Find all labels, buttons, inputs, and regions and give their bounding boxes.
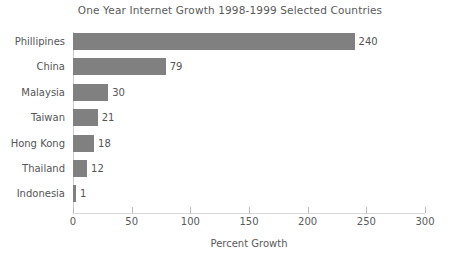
plot-area: 24079302118121 PhillipinesChinaMalaysiaT… bbox=[0, 0, 460, 268]
x-axis-tick-label: 0 bbox=[53, 216, 93, 228]
bar-value-label: 18 bbox=[98, 138, 111, 150]
x-axis-line bbox=[73, 213, 425, 214]
bar-chart: One Year Internet Growth 1998-1999 Selec… bbox=[0, 0, 460, 268]
x-axis-tick bbox=[73, 207, 74, 213]
x-axis-tick-label: 300 bbox=[405, 216, 445, 228]
bar bbox=[73, 84, 108, 101]
x-axis-tick bbox=[249, 207, 250, 213]
x-axis-tick bbox=[366, 207, 367, 213]
x-axis-tick-label: 50 bbox=[112, 216, 152, 228]
category-label: Taiwan bbox=[31, 112, 65, 124]
x-axis-tick-label: 100 bbox=[170, 216, 210, 228]
category-label: Phillipines bbox=[15, 36, 65, 48]
category-label: Indonesia bbox=[17, 188, 65, 200]
bar bbox=[73, 135, 94, 152]
x-axis-tick bbox=[308, 207, 309, 213]
bar-value-label: 79 bbox=[170, 61, 183, 73]
bar bbox=[73, 185, 76, 202]
category-label: China bbox=[36, 61, 65, 73]
bar-value-label: 12 bbox=[91, 163, 104, 175]
bar-value-label: 240 bbox=[359, 36, 378, 48]
x-axis-tick-label: 250 bbox=[346, 216, 386, 228]
bar-value-label: 1 bbox=[80, 188, 86, 200]
x-axis-tick bbox=[190, 207, 191, 213]
bar bbox=[73, 160, 87, 177]
bar bbox=[73, 33, 355, 50]
x-axis-title: Percent Growth bbox=[73, 238, 425, 249]
bar-value-label: 21 bbox=[102, 112, 115, 124]
category-label: Hong Kong bbox=[11, 138, 65, 150]
bar-value-label: 30 bbox=[112, 87, 125, 99]
bar bbox=[73, 109, 98, 126]
bar bbox=[73, 58, 166, 75]
x-axis-tick-label: 200 bbox=[288, 216, 328, 228]
x-axis-tick-label: 150 bbox=[229, 216, 269, 228]
x-axis-tick bbox=[132, 207, 133, 213]
category-label: Thailand bbox=[22, 163, 65, 175]
x-axis-tick bbox=[425, 207, 426, 213]
category-label: Malaysia bbox=[21, 87, 65, 99]
